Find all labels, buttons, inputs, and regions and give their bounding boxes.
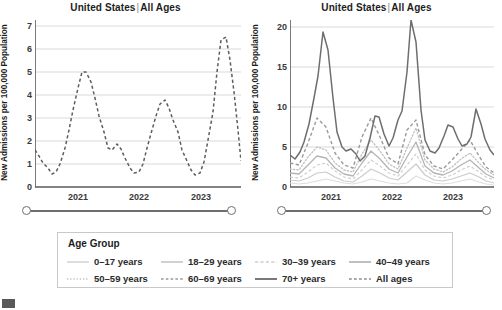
- x-tick-right-2023: 2023: [443, 192, 463, 202]
- legend-line-swatch-60-69: [161, 274, 183, 283]
- series-0-17-right: [290, 176, 494, 185]
- y-axis-label-left-text: New Admissions per 100,000 Population: [0, 24, 9, 181]
- legend-label-all-ages: All ages: [376, 273, 412, 284]
- series-50-59-right: [290, 128, 494, 175]
- date-range-slider-right[interactable]: [277, 204, 491, 218]
- legend-line-swatch-50-59: [67, 274, 89, 283]
- range-start-handle-left[interactable]: [22, 206, 31, 215]
- y-axis-label-right-text: New Admissions per 100,000 Population: [251, 24, 260, 181]
- y-tick-left-5: 5: [14, 67, 32, 77]
- legend-line-swatch-70-plus: [255, 274, 277, 283]
- y-tick-right-5: 5: [265, 142, 287, 152]
- y-axis-label-left: New Admissions per 100,000 Population: [0, 16, 11, 188]
- date-range-slider-left[interactable]: [22, 204, 236, 218]
- y-tick-right-20: 20: [265, 22, 287, 32]
- y-tick-left-7: 7: [14, 21, 32, 31]
- legend-item-40-49[interactable]: 40–49 years: [349, 256, 443, 267]
- y-tick-right-15: 15: [265, 62, 287, 72]
- legend-item-all-ages[interactable]: All ages: [349, 273, 443, 284]
- legend-label-18-29: 18–29 years: [188, 256, 242, 267]
- legend-line-swatch-0-17: [67, 257, 89, 266]
- y-tick-left-3: 3: [14, 113, 32, 123]
- chart-title-right: United States|All Ages: [251, 2, 502, 13]
- legend-item-60-69[interactable]: 60–69 years: [161, 273, 255, 284]
- chart-panel-left: United States|All Ages New Admissions pe…: [0, 0, 251, 225]
- legend-label-50-59: 50–59 years: [94, 273, 148, 284]
- chart-panel-right: United States|All Ages New Admissions pe…: [251, 0, 502, 225]
- y-tick-left-4: 4: [14, 90, 32, 100]
- legend-line-swatch-18-29: [161, 257, 183, 266]
- legend-line-swatch-all-ages: [349, 274, 371, 283]
- legend-items: 0–17 years 18–29 years 30–39 years 40–49…: [67, 253, 443, 287]
- legend-title: Age Group: [68, 238, 443, 249]
- x-tick-left-2022: 2022: [129, 192, 149, 202]
- legend-label-60-69: 60–69 years: [188, 273, 242, 284]
- range-start-handle-right[interactable]: [277, 206, 286, 215]
- legend-item-50-59[interactable]: 50–59 years: [67, 273, 161, 284]
- charts-container: United States|All Ages New Admissions pe…: [0, 0, 502, 225]
- legend-item-18-29[interactable]: 18–29 years: [161, 256, 255, 267]
- legend-label-0-17: 0–17 years: [94, 256, 143, 267]
- range-end-handle-right[interactable]: [482, 206, 491, 215]
- y-tick-left-2: 2: [14, 136, 32, 146]
- x-tick-left-2023: 2023: [191, 192, 211, 202]
- x-tick-left-2021: 2021: [68, 192, 88, 202]
- x-tick-right-2021: 2021: [321, 192, 341, 202]
- legend-line-swatch-30-39: [255, 257, 277, 266]
- chart-title-location: United States: [321, 2, 386, 13]
- plot-area-left[interactable]: [35, 20, 241, 190]
- corner-marker: [2, 299, 15, 308]
- y-tick-left-6: 6: [14, 44, 32, 54]
- x-tick-right-2022: 2022: [382, 192, 402, 202]
- legend-panel: Age Group 0–17 years 18–29 years 30–39 y…: [57, 232, 453, 288]
- legend-item-0-17[interactable]: 0–17 years: [67, 256, 161, 267]
- series-70-plus-right: [290, 20, 494, 161]
- y-tick-right-0: 0: [265, 182, 287, 192]
- legend-label-40-49: 40–49 years: [376, 256, 430, 267]
- y-tick-right-10: 10: [265, 102, 287, 112]
- legend-label-70-plus: 70+ years: [282, 273, 326, 284]
- legend-line-swatch-40-49: [349, 257, 371, 266]
- y-axis-label-right: New Admissions per 100,000 Population: [249, 16, 262, 188]
- chart-title-age: All Ages: [391, 2, 431, 13]
- y-tick-left-1: 1: [14, 159, 32, 169]
- y-tick-left-0: 0: [14, 182, 32, 192]
- gridlines-right: [290, 27, 494, 147]
- legend-label-30-39: 30–39 years: [282, 256, 336, 267]
- chart-title-location: United States: [70, 2, 135, 13]
- chart-title-age: All Ages: [140, 2, 180, 13]
- range-track-right[interactable]: [284, 210, 484, 212]
- series-all-ages-left: [35, 37, 241, 175]
- plot-area-right[interactable]: [290, 20, 494, 190]
- range-track-left[interactable]: [29, 210, 229, 212]
- legend-item-30-39[interactable]: 30–39 years: [255, 256, 349, 267]
- range-end-handle-left[interactable]: [227, 206, 236, 215]
- chart-title-left: United States|All Ages: [0, 2, 251, 13]
- legend-item-70-plus[interactable]: 70+ years: [255, 273, 349, 284]
